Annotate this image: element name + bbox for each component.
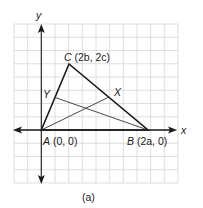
median-a-to-x — [41, 97, 109, 130]
figure-caption: (a) — [82, 191, 95, 203]
y-axis — [38, 24, 45, 184]
point-y-label: Y — [43, 88, 51, 100]
medians — [41, 97, 148, 130]
point-c-label: C (2b, 2c) — [64, 51, 110, 63]
coordinate-diagram: y x C (2b, 2c) Y X A (0, 0) B (2a, 0) (a… — [0, 0, 203, 208]
triangle-abc — [41, 64, 148, 130]
point-b-label: B (2a, 0) — [127, 135, 167, 147]
point-a-label: A (0, 0) — [42, 135, 77, 147]
median-b-to-y — [55, 98, 148, 131]
point-x-label: X — [113, 86, 122, 98]
x-axis-label: x — [180, 124, 187, 136]
y-axis-label: y — [35, 9, 42, 21]
